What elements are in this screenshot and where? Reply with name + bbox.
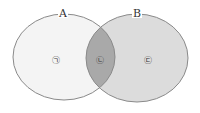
set-a-label: A	[58, 7, 68, 20]
venn-svg: A B ㉠ ㉡ ㉢	[0, 0, 200, 113]
region-a-only-label: ㉠	[52, 56, 60, 65]
set-b-label: B	[133, 7, 141, 20]
region-b-only-label: ㉢	[144, 56, 152, 65]
venn-diagram: A B ㉠ ㉡ ㉢	[0, 0, 200, 113]
region-intersection-label: ㉡	[96, 56, 104, 65]
